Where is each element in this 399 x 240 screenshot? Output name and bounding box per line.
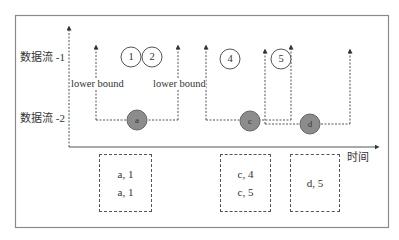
event-d-label: d — [300, 114, 320, 134]
lower-bound-label-2: lower bound — [153, 79, 206, 90]
row-label-stream-2: 数据流 -2 — [20, 113, 65, 124]
event-4-label: 4 — [220, 49, 240, 69]
output-box-a-line-2: a, 1 — [118, 183, 134, 201]
event-1-label: 1 — [121, 47, 141, 67]
output-box-c-line-2: c, 5 — [238, 183, 254, 201]
time-axis-label: 时间 — [347, 152, 369, 163]
output-box-d: d, 5 — [290, 154, 340, 212]
output-box-a: a, 1 a, 1 — [99, 154, 152, 212]
output-box-c: c, 4 c, 5 — [220, 154, 271, 212]
event-a-label: a — [127, 110, 147, 130]
lower-bound-label-1: lower bound — [71, 79, 124, 90]
output-box-a-line-1: a, 1 — [118, 165, 134, 183]
event-2-label: 2 — [142, 47, 162, 67]
row-label-stream-1: 数据流 -1 — [20, 52, 65, 63]
output-box-d-line-1: d, 5 — [307, 174, 324, 192]
event-5-label: 5 — [271, 49, 291, 69]
event-c-label: c — [240, 111, 260, 131]
output-box-c-line-1: c, 4 — [238, 165, 254, 183]
